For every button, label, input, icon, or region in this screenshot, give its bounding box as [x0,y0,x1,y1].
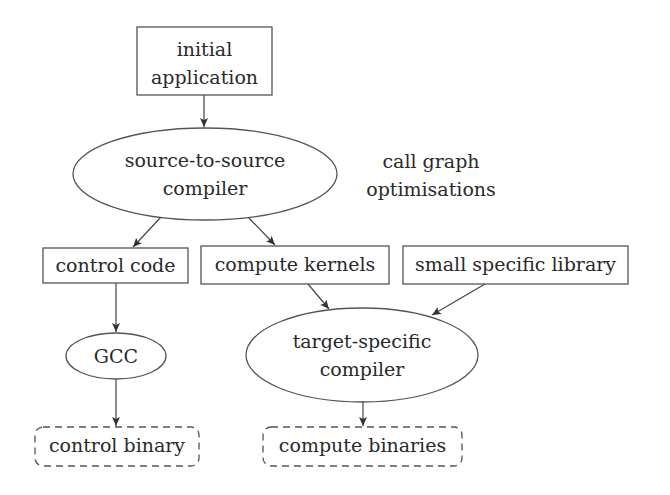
annotation-call-graph-optimisations: call graph optimisations [366,150,496,200]
node-compute-binaries: compute binaries [263,427,462,466]
s2s-compiler-line2: compiler [163,177,249,199]
edge-library-to-target [432,284,485,315]
control-binary-label: control binary [49,434,185,456]
node-initial-application: initial application [137,27,272,95]
node-control-code: control code [43,248,188,283]
target-compiler-line2: compiler [320,358,406,380]
s2s-compiler-line1: source-to-source [125,149,286,171]
node-compute-kernels: compute kernels [201,246,389,284]
annotation-line2: optimisations [366,178,496,200]
edge-s2s-to-control-code [133,217,161,247]
small-library-label: small specific library [415,253,616,275]
target-compiler-line1: target-specific [293,330,432,352]
node-target-specific-compiler: target-specific compiler [246,308,478,402]
gcc-label: GCC [94,345,138,367]
initial-application-line1: initial [177,38,233,60]
node-small-specific-library: small specific library [403,246,628,284]
edge-s2s-to-compute-kernels [248,217,275,245]
annotation-line1: call graph [382,150,479,172]
control-code-label: control code [55,254,175,276]
compute-kernels-label: compute kernels [215,253,376,275]
compilation-flow-diagram: initial application source-to-source com… [0,0,670,495]
initial-application-line2: application [151,66,258,88]
edge-compute-kernels-to-target [308,284,329,309]
compute-binaries-label: compute binaries [279,434,446,456]
node-gcc: GCC [66,333,166,379]
node-control-binary: control binary [35,427,199,466]
node-source-to-source-compiler: source-to-source compiler [73,128,337,220]
